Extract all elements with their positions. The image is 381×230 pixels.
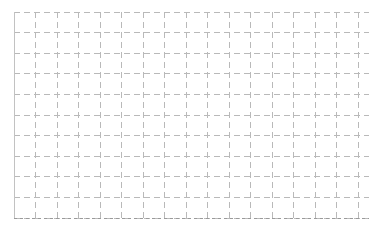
grid-horizontal-lines <box>14 12 369 218</box>
grid-svg <box>0 0 381 230</box>
grid-canvas <box>0 0 381 230</box>
